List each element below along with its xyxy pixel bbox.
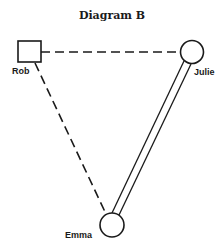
node-label-julie: Julie xyxy=(194,67,215,77)
node-label-rob: Rob xyxy=(12,66,30,76)
relationship-diagram xyxy=(0,0,224,251)
node-label-emma: Emma xyxy=(65,230,92,240)
edge-julie-emma-line-1 xyxy=(112,61,184,213)
node-emma-circle xyxy=(100,213,124,237)
node-julie-circle xyxy=(181,41,204,64)
node-rob-square xyxy=(18,41,41,62)
edge-julie-emma-line-2 xyxy=(119,64,191,215)
edge-rob-emma-dashed xyxy=(35,63,106,214)
